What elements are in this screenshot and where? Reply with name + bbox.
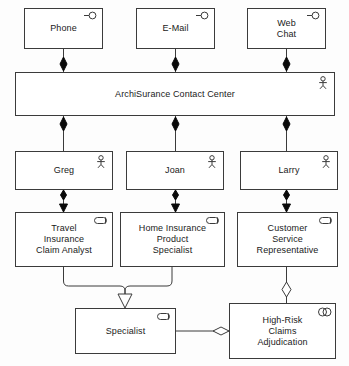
edge-center-to-larry [283, 116, 290, 151]
node-archisurance-contact-center-label: ArchiSurance Contact Center [105, 89, 245, 100]
edge-email-to-center [172, 49, 179, 72]
node-joan[interactable]: Joan [126, 151, 224, 190]
business-actor-icon [205, 155, 219, 168]
business-actor-icon [319, 155, 333, 168]
node-specialist[interactable]: Specialist [75, 308, 176, 354]
node-archisurance-contact-center[interactable]: ArchiSurance Contact Center [15, 72, 335, 116]
node-email-label: E-Mail [152, 23, 198, 34]
node-greg[interactable]: Greg [15, 151, 113, 190]
business-role-icon [157, 312, 171, 325]
business-actor-icon [316, 76, 330, 89]
edge-roles-to-specialist [64, 267, 173, 308]
business-collaboration-icon [317, 307, 331, 320]
edge-joan-to-home-specialist [172, 190, 180, 212]
node-customer-service-representative[interactable]: Customer Service Representative [237, 212, 338, 267]
node-customer-service-representative-label: Customer Service Representative [253, 223, 323, 256]
node-larry-label: Larry [268, 165, 309, 176]
edge-greg-to-travel-analyst [60, 190, 68, 212]
archimate-diagram: Phone E-Mail Web Chat ArchiSuran [0, 0, 349, 366]
node-web-chat-label: Web Chat [267, 18, 306, 40]
node-greg-label: Greg [44, 165, 84, 176]
node-high-risk-claims-adjudication[interactable]: High-Risk Claims Adjudication [229, 303, 336, 359]
business-interface-icon [307, 12, 321, 25]
edge-center-to-greg [60, 116, 67, 151]
node-high-risk-claims-adjudication-label: High-Risk Claims Adjudication [253, 315, 311, 348]
node-larry[interactable]: Larry [240, 151, 338, 190]
node-travel-insurance-claim-analyst-label: Travel Insurance Claim Analyst [32, 223, 96, 256]
edge-phone-to-center [60, 49, 67, 72]
edge-larry-to-csr [283, 190, 291, 212]
edge-csr-to-high-risk [282, 267, 291, 303]
node-email[interactable]: E-Mail [136, 8, 215, 49]
node-home-insurance-product-specialist-label: Home Insurance Product Specialist [135, 223, 210, 256]
node-phone-label: Phone [40, 23, 87, 34]
node-web-chat[interactable]: Web Chat [247, 8, 326, 49]
node-specialist-label: Specialist [96, 326, 156, 337]
edge-center-to-joan [172, 116, 179, 151]
node-phone[interactable]: Phone [24, 8, 103, 49]
edge-specialist-to-high-risk [176, 327, 229, 335]
business-actor-icon [94, 155, 108, 168]
business-role-icon [94, 216, 108, 229]
node-joan-label: Joan [155, 165, 195, 176]
edge-webchat-to-center [283, 49, 290, 72]
node-travel-insurance-claim-analyst[interactable]: Travel Insurance Claim Analyst [15, 212, 113, 267]
node-home-insurance-product-specialist[interactable]: Home Insurance Product Specialist [120, 212, 225, 267]
